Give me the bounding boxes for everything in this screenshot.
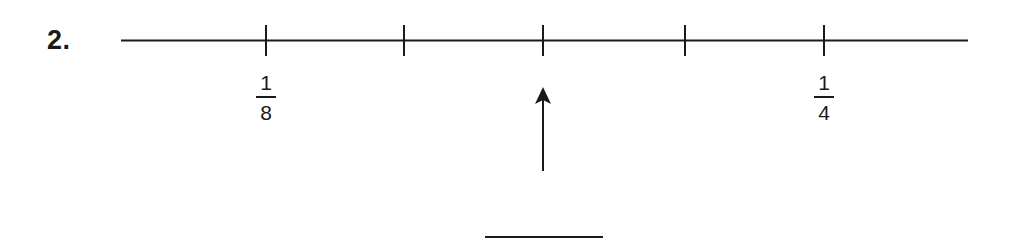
fraction-bar (814, 96, 834, 98)
arrow-up-icon (535, 87, 551, 171)
label-one-eighth: 1 8 (251, 72, 281, 123)
denominator: 4 (809, 102, 839, 123)
denominator: 8 (251, 102, 281, 123)
answer-blank[interactable] (485, 215, 603, 237)
label-one-fourth: 1 4 (809, 72, 839, 123)
fraction-bar (256, 96, 276, 98)
number-line-figure (0, 0, 1009, 244)
numerator: 1 (809, 72, 839, 94)
numerator: 1 (251, 72, 281, 94)
